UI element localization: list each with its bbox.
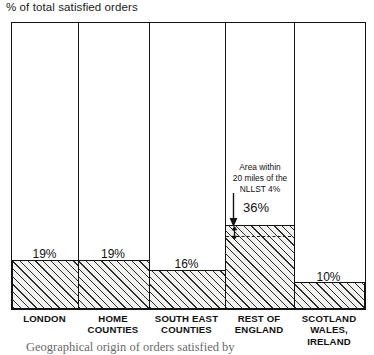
bar-value-rest-of-england: 36% [243,200,269,215]
bar-value-south-east-counties: 16% [148,257,225,271]
annotation-line-1: Area within [218,162,302,173]
nllst-band-double-arrow-icon [230,226,239,240]
category-axis-labels: LONDON HOME COUNTIES SOUTH EAST COUNTIES… [11,313,366,343]
bar-scotland-wales-ireland[interactable] [294,282,365,309]
bar-value-scotland-wales-ireland: 10% [293,270,364,284]
bar-value-home-counties: 19% [77,247,149,261]
figure-caption-clipped: Geographical origin of orders satisfied … [26,340,235,355]
bar-south-east-counties[interactable] [149,270,226,309]
bar-value-london: 19% [11,247,78,261]
category-label-home-counties: HOME COUNTIES [77,313,149,336]
category-label-rest-of-england: REST OF ENGLAND [224,313,294,336]
bar-home-counties[interactable] [78,260,150,309]
annotation-down-arrow-icon [229,193,238,227]
annotation-text: Area within 20 miles of the NLLST 4% [218,162,302,194]
category-label-london: LONDON [11,313,78,324]
chart-title: % of total satisfied orders [6,1,138,13]
category-label-scotland-wales-ireland: SCOTLAND WALES, IRELAND [293,313,365,347]
bar-london[interactable] [12,260,79,309]
annotation-line-2: 20 miles of the [218,173,302,184]
category-label-south-east-counties: SOUTH EAST COUNTIES [148,313,225,336]
